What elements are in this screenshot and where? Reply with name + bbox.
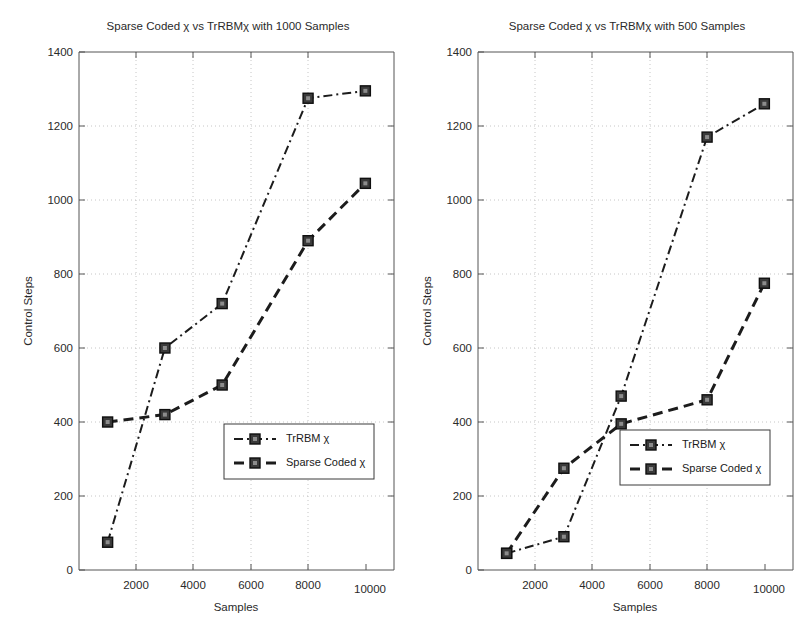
data-point-marker-core — [363, 89, 367, 93]
ytick-1200: 1200 — [47, 120, 73, 132]
ytick-200: 200 — [54, 490, 73, 502]
data-point-marker-core — [220, 302, 224, 306]
data-point-marker-core — [562, 535, 566, 539]
data-point-marker-core — [163, 413, 167, 417]
xtick-6000: 6000 — [637, 579, 663, 591]
ytick-600: 600 — [54, 342, 73, 354]
legend-left[interactable]: TrRBM χSparse Coded χ — [224, 424, 374, 479]
ytick-800: 800 — [453, 268, 472, 280]
data-point-marker-core — [363, 181, 367, 185]
data-point-marker-core — [762, 281, 766, 285]
data-point-marker-core — [705, 135, 709, 139]
ytick-0: 0 — [466, 564, 472, 576]
xaxis-label-left: Samples — [214, 601, 259, 613]
xtick-8000: 8000 — [295, 579, 321, 591]
yaxis-ticklabels-right: 0 200 400 600 800 1000 1200 1400 — [446, 46, 472, 576]
legend-label-1: Sparse Coded χ — [286, 456, 365, 468]
ytick-200: 200 — [453, 490, 472, 502]
ytick-1200: 1200 — [446, 120, 472, 132]
xtick-4000: 4000 — [579, 579, 605, 591]
chart-svg-left: Sparse Coded χ vs TrRBMχ with 1000 Sampl… — [0, 0, 402, 632]
ytick-800: 800 — [54, 268, 73, 280]
chart-svg-right: Sparse Coded χ vs TrRBMχ with 500 Sample… — [402, 0, 804, 632]
ytick-1400: 1400 — [47, 46, 73, 58]
data-point-marker-core — [505, 551, 509, 555]
ytick-1000: 1000 — [446, 194, 472, 206]
xtick-10000: 10000 — [753, 583, 785, 595]
xtick-8000: 8000 — [694, 579, 720, 591]
data-point-marker-core — [762, 102, 766, 106]
legend-right[interactable]: TrRBM χSparse Coded χ — [620, 430, 770, 485]
xaxis-label-right: Samples — [613, 601, 658, 613]
xtick-6000: 6000 — [238, 579, 264, 591]
legend-label-1: Sparse Coded χ — [682, 462, 761, 474]
ytick-0: 0 — [67, 564, 73, 576]
legend-marker-core-1 — [253, 461, 257, 465]
legend-marker-core-0 — [649, 443, 653, 447]
yaxis-ticklabels-left: 0 200 400 600 800 1000 1200 1400 — [47, 46, 73, 576]
ytick-600: 600 — [453, 342, 472, 354]
yaxis-label-right: Control Steps — [421, 276, 433, 346]
data-point-marker-core — [619, 394, 623, 398]
chart-title-left: Sparse Coded χ vs TrRBMχ with 1000 Sampl… — [107, 20, 350, 32]
plot-area-right — [478, 52, 793, 570]
legend-label-0: TrRBM χ — [286, 432, 329, 444]
yaxis-label-left: Control Steps — [22, 276, 34, 346]
ytick-400: 400 — [453, 416, 472, 428]
data-point-marker-core — [220, 383, 224, 387]
data-point-marker-core — [106, 540, 110, 544]
legend-marker-core-0 — [253, 437, 257, 441]
data-point-marker-core — [163, 346, 167, 350]
data-point-marker-core — [619, 422, 623, 426]
plot-area-left — [79, 52, 394, 570]
xtick-10000: 10000 — [354, 583, 386, 595]
legend-marker-core-1 — [649, 467, 653, 471]
data-point-marker-core — [106, 420, 110, 424]
chart-panel-left: Sparse Coded χ vs TrRBMχ with 1000 Sampl… — [0, 0, 402, 632]
legend-label-0: TrRBM χ — [682, 438, 725, 450]
xtick-2000: 2000 — [123, 579, 149, 591]
figure-two-panel-line-charts: Sparse Coded χ vs TrRBMχ with 1000 Sampl… — [0, 0, 804, 632]
data-point-marker-core — [306, 96, 310, 100]
ytick-1000: 1000 — [47, 194, 73, 206]
data-point-marker-core — [306, 239, 310, 243]
xtick-4000: 4000 — [180, 579, 206, 591]
chart-panel-right: Sparse Coded χ vs TrRBMχ with 500 Sample… — [402, 0, 804, 632]
xaxis-ticklabels-right: 2000 4000 6000 8000 10000 — [522, 579, 785, 595]
xaxis-ticklabels-left: 2000 4000 6000 8000 10000 — [123, 579, 386, 595]
ytick-1400: 1400 — [446, 46, 472, 58]
data-point-marker-core — [705, 398, 709, 402]
ytick-400: 400 — [54, 416, 73, 428]
data-point-marker-core — [562, 466, 566, 470]
chart-title-right: Sparse Coded χ vs TrRBMχ with 500 Sample… — [509, 20, 746, 32]
xtick-2000: 2000 — [522, 579, 548, 591]
